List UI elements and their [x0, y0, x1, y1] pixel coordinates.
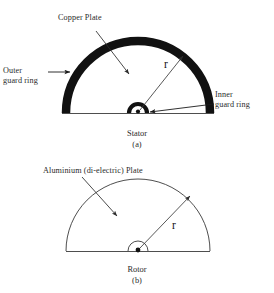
rotor-radius-arrow	[140, 196, 190, 248]
stator-radius-arrow	[140, 56, 183, 110]
label-aluminium-plate: Aluminium (di-electric) Plate	[43, 166, 143, 176]
label-copper-plate: Copper Plate	[58, 13, 102, 23]
rotor-diagram	[66, 177, 210, 252]
stator-centre-dot	[136, 109, 140, 113]
label-inner-guard-ring-line2: guard ring	[215, 100, 250, 109]
caption-stator-name: Stator	[97, 128, 177, 139]
label-outer-guard-ring: Outer guard ring	[3, 66, 55, 86]
caption-stator-index: (a)	[97, 139, 177, 150]
rotor-centre-dot	[136, 248, 141, 253]
aluminium-plate-arc	[66, 179, 210, 251]
label-inner-guard-ring: Inner guard ring	[215, 90, 273, 110]
label-outer-guard-ring-line1: Outer	[3, 66, 22, 75]
caption-rotor: Rotor (b)	[97, 264, 177, 286]
inner-guard-ring-leader	[150, 104, 214, 112]
label-inner-guard-ring-line1: Inner	[215, 90, 233, 99]
rotor-radius-label: r	[172, 219, 176, 231]
stator-diagram	[48, 31, 214, 114]
figure-root: Copper Plate Outer guard ring Inner guar…	[0, 0, 274, 293]
aluminium-plate-leader	[82, 177, 117, 216]
caption-rotor-index: (b)	[97, 275, 177, 286]
caption-rotor-name: Rotor	[97, 264, 177, 275]
caption-stator: Stator (a)	[97, 128, 177, 150]
stator-radius-label: r	[164, 58, 168, 70]
label-outer-guard-ring-line2: guard ring	[3, 76, 38, 85]
